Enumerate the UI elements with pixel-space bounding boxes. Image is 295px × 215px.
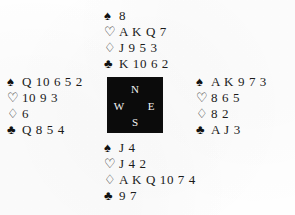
north-club-line: ♣ K 10 6 2 (104, 56, 169, 72)
diamond-icon: ♢ (196, 106, 209, 122)
east-club-line: ♣ A J 3 (196, 122, 267, 138)
hand-west: ♠ Q 10 6 5 2 ♡ 10 9 3 ♢ 6 ♣ Q 8 5 4 (7, 74, 83, 138)
west-spades: Q 10 6 5 2 (20, 74, 83, 90)
south-spade-line: ♠ J 4 (104, 140, 196, 156)
diamond-icon: ♢ (7, 106, 20, 122)
west-clubs: Q 8 5 4 (20, 122, 65, 138)
south-clubs: 9 7 (117, 188, 137, 204)
north-heart-line: ♡ A K Q 7 (104, 24, 169, 40)
compass-label-west: W (113, 101, 125, 112)
hand-north: ♠ 8 ♡ A K Q 7 ♢ J 9 5 3 ♣ K 10 6 2 (104, 8, 169, 72)
spade-icon: ♠ (7, 74, 20, 90)
bridge-deal-diagram: ♠ 8 ♡ A K Q 7 ♢ J 9 5 3 ♣ K 10 6 2 ♠ Q 1… (0, 0, 295, 215)
west-spade-line: ♠ Q 10 6 5 2 (7, 74, 83, 90)
south-diamonds: A K Q 10 7 4 (117, 172, 196, 188)
west-diamonds: 6 (20, 106, 29, 122)
hand-south: ♠ J 4 ♡ J 4 2 ♢ A K Q 10 7 4 ♣ 9 7 (104, 140, 196, 204)
west-club-line: ♣ Q 8 5 4 (7, 122, 83, 138)
diamond-icon: ♢ (104, 40, 117, 56)
heart-icon: ♡ (104, 156, 117, 172)
club-icon: ♣ (7, 122, 20, 138)
north-spades: 8 (117, 8, 126, 24)
south-club-line: ♣ 9 7 (104, 188, 196, 204)
north-diamond-line: ♢ J 9 5 3 (104, 40, 169, 56)
south-hearts: J 4 2 (117, 156, 147, 172)
compass-label-north: N (129, 84, 141, 95)
heart-icon: ♡ (104, 24, 117, 40)
compass-box: N W E S (107, 77, 163, 133)
north-diamonds: J 9 5 3 (117, 40, 158, 56)
east-heart-line: ♡ 8 6 5 (196, 90, 267, 106)
north-clubs: K 10 6 2 (117, 56, 169, 72)
east-spades: A K 9 7 3 (209, 74, 267, 90)
east-diamond-line: ♢ 8 2 (196, 106, 267, 122)
west-hearts: 10 9 3 (20, 90, 58, 106)
west-diamond-line: ♢ 6 (7, 106, 83, 122)
south-diamond-line: ♢ A K Q 10 7 4 (104, 172, 196, 188)
south-spades: J 4 (117, 140, 136, 156)
east-spade-line: ♠ A K 9 7 3 (196, 74, 267, 90)
club-icon: ♣ (104, 56, 117, 72)
north-spade-line: ♠ 8 (104, 8, 169, 24)
club-icon: ♣ (104, 188, 117, 204)
spade-icon: ♠ (104, 8, 117, 24)
hand-east: ♠ A K 9 7 3 ♡ 8 6 5 ♢ 8 2 ♣ A J 3 (196, 74, 267, 138)
east-hearts: 8 6 5 (209, 90, 240, 106)
south-heart-line: ♡ J 4 2 (104, 156, 196, 172)
diamond-icon: ♢ (104, 172, 117, 188)
spade-icon: ♠ (196, 74, 209, 90)
east-clubs: A J 3 (209, 122, 241, 138)
heart-icon: ♡ (196, 90, 209, 106)
compass-label-south: S (129, 117, 141, 128)
club-icon: ♣ (196, 122, 209, 138)
east-diamonds: 8 2 (209, 106, 229, 122)
west-heart-line: ♡ 10 9 3 (7, 90, 83, 106)
compass-label-east: E (145, 101, 157, 112)
spade-icon: ♠ (104, 140, 117, 156)
north-hearts: A K Q 7 (117, 24, 167, 40)
heart-icon: ♡ (7, 90, 20, 106)
